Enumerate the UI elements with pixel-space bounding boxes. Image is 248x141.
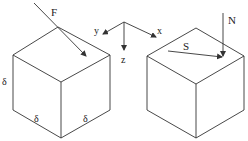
edge-label-bottom-left: δ	[34, 113, 39, 124]
right-cube	[147, 28, 244, 138]
coordinate-axes	[103, 22, 156, 50]
y-axis-label: y	[94, 25, 99, 36]
edge-label-left: δ	[2, 76, 7, 87]
shear-force-s-label: S	[183, 40, 189, 52]
x-axis-arrow	[124, 22, 156, 37]
edge-label-bottom-right: δ	[83, 113, 88, 124]
y-axis-arrow	[103, 22, 124, 34]
z-axis-label: z	[121, 54, 126, 65]
force-f-label: F	[51, 6, 57, 18]
x-axis-label: x	[157, 25, 162, 36]
left-cube	[13, 27, 110, 138]
shear-force-s-arrow	[168, 51, 222, 57]
normal-force-n-label: N	[228, 14, 236, 26]
force-f-arrow	[34, 3, 86, 56]
diagram-canvas: F δ δ δ y x z N S	[0, 0, 248, 141]
